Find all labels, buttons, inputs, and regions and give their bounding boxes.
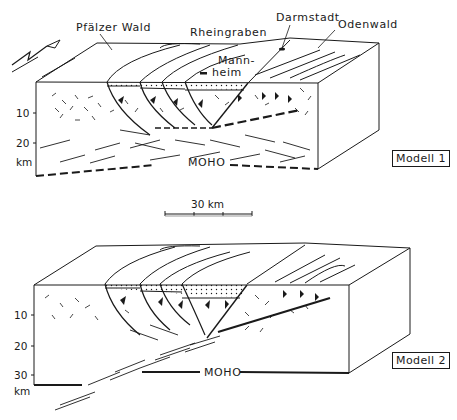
scale-bar (165, 211, 252, 216)
depth-tick-30-bottom: 30 (14, 369, 27, 381)
depth-unit-top: km (16, 156, 32, 168)
diagram-canvas: Pfälzer Wald Rheingraben Darmstadt Odenw… (0, 0, 457, 420)
label-mannheim-2: heim (212, 66, 242, 79)
label-odenwald: Odenwald (338, 18, 398, 31)
label-moho-bottom: MOHO (204, 366, 241, 379)
model-label-2: Modell 2 (392, 352, 450, 369)
label-pfaelzer-wald: Pfälzer Wald (76, 21, 151, 34)
depth-unit-bottom: km (14, 385, 30, 397)
label-moho-top: MOHO (188, 156, 225, 169)
label-darmstadt: Darmstadt (276, 11, 340, 24)
depth-tick-20-bottom: 20 (14, 340, 27, 352)
depth-tick-10-bottom: 10 (14, 309, 27, 321)
direction-arrow-icon (12, 40, 75, 77)
label-rheingraben: Rheingraben (190, 26, 267, 39)
depth-tick-20-top: 20 (16, 137, 29, 149)
scale-bar-label: 30 km (191, 198, 224, 210)
depth-tick-10-top: 10 (16, 107, 29, 119)
bottom-block (31, 243, 410, 410)
model-label-1: Modell 1 (392, 150, 450, 167)
